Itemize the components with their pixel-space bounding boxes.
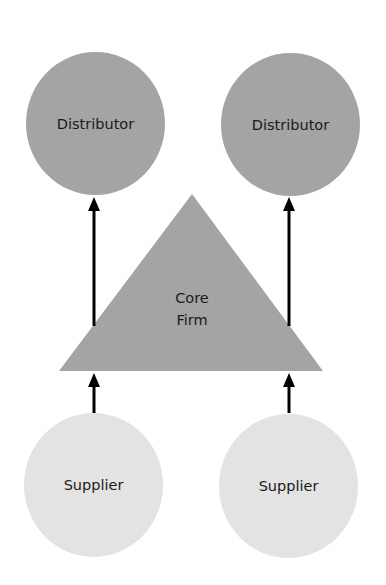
- core-label-line2: Firm: [142, 309, 242, 331]
- core-firm-triangle: [59, 194, 323, 371]
- supplier-label: Supplier: [64, 477, 124, 493]
- arrow-core-to-distributor-left: [88, 197, 100, 326]
- supplier-node-right: Supplier: [219, 414, 358, 558]
- core-firm-label: Core Firm: [142, 287, 242, 331]
- arrow-supplier-to-core-left: [88, 373, 100, 413]
- supplier-node-left: Supplier: [24, 413, 163, 557]
- supplier-label: Supplier: [259, 478, 319, 494]
- arrow-core-to-distributor-right: [283, 197, 295, 326]
- core-label-line1: Core: [142, 287, 242, 309]
- arrow-supplier-to-core-right: [283, 373, 295, 413]
